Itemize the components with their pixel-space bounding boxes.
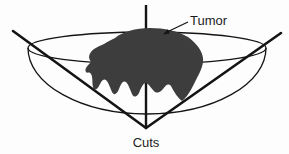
cuts-label: Cuts bbox=[133, 135, 160, 150]
tumor-label: Tumor bbox=[190, 13, 228, 28]
diagram-svg: Tumor Cuts bbox=[0, 0, 289, 154]
tumor-cuts-diagram: Tumor Cuts bbox=[0, 0, 289, 154]
